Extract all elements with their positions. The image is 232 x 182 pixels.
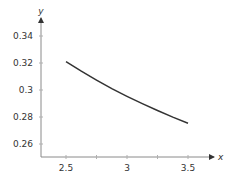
y-tick-label: 0.3 — [19, 85, 33, 95]
ticks: 0.260.280.30.320.342.533.5 — [13, 31, 195, 173]
y-tick-label: 0.34 — [13, 31, 33, 41]
y-tick-label: 0.26 — [13, 139, 33, 149]
y-tick-label: 0.28 — [13, 112, 33, 122]
x-axis-label: x — [217, 152, 224, 162]
y-tick-label: 0.32 — [13, 58, 33, 68]
x-tick-label: 3.5 — [181, 163, 195, 173]
chart: y x 0.260.280.30.320.342.533.5 — [0, 0, 232, 182]
x-tick-label: 3 — [124, 163, 130, 173]
series-curve — [66, 62, 188, 123]
y-axis-label: y — [37, 6, 44, 16]
x-tick-label: 2.5 — [59, 163, 73, 173]
